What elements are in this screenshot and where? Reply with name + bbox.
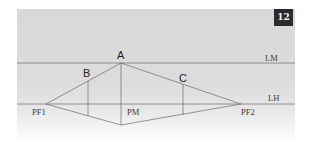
point-label-a: A: [117, 49, 125, 61]
perspective-diagram: A B C LM LH PF1 PM PF2: [0, 0, 310, 144]
point-label-pf2: PF2: [241, 107, 255, 117]
point-label-b: B: [83, 67, 90, 79]
line-bottom-pf1: [46, 104, 121, 125]
line-label-lh: LH: [268, 93, 279, 103]
point-label-pf1: PF1: [32, 107, 46, 117]
figure-number-badge: 12: [274, 9, 293, 26]
point-label-pm: PM: [127, 107, 140, 117]
line-label-lm: LM: [265, 53, 278, 63]
point-label-c: C: [179, 72, 187, 84]
